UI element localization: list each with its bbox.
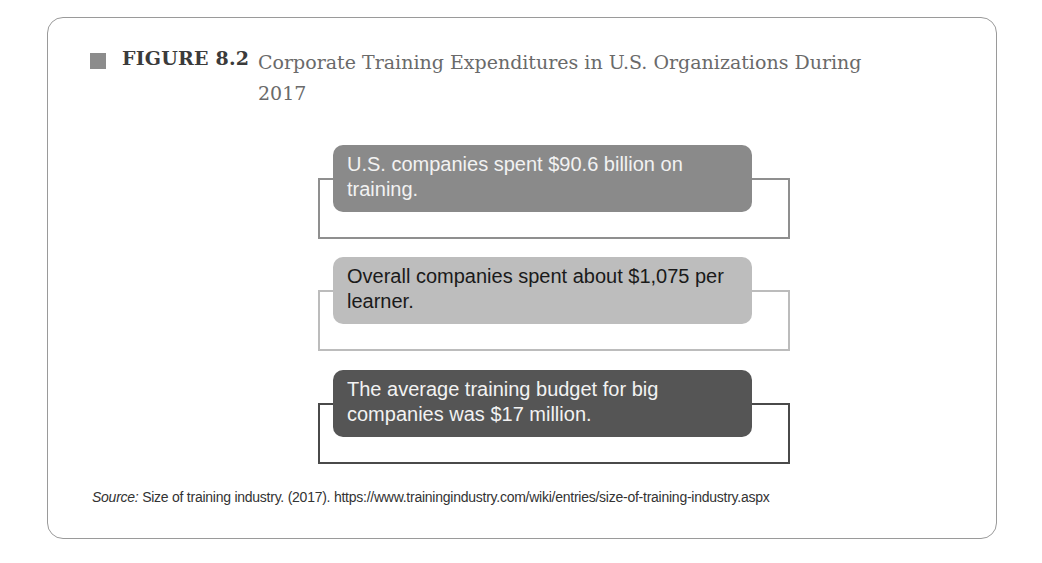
figure-label: FIGURE 8.2 (122, 47, 249, 69)
figure-title: Corporate Training Expenditures in U.S. … (258, 47, 898, 109)
fact-box-1: U.S. companies spent $90.6 billion on tr… (333, 145, 752, 212)
source-text: Size of training industry. (2017). https… (139, 489, 770, 505)
source-citation: Source: Size of training industry. (2017… (92, 489, 770, 505)
figure-marker-icon (90, 53, 106, 69)
source-prefix: Source: (92, 489, 139, 505)
fact-box-2: Overall companies spent about $1,075 per… (333, 257, 752, 324)
fact-box-3: The average training budget for big comp… (333, 370, 752, 437)
